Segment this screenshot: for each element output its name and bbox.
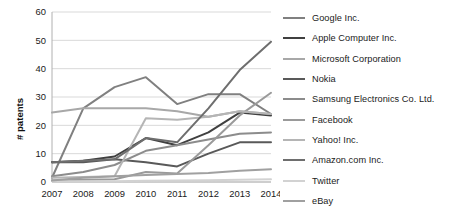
- chart-legend: Google Inc.Apple Computer Inc.Microsoft …: [283, 8, 458, 213]
- x-tick-label: 2011: [167, 188, 187, 199]
- y-tick-label: 40: [36, 63, 46, 74]
- legend-color-swatch: [283, 200, 305, 202]
- series-line: [52, 113, 271, 163]
- x-tick-label: 2008: [73, 188, 94, 199]
- y-axis-title: # patents: [14, 98, 25, 140]
- legend-item[interactable]: Nokia: [283, 69, 458, 89]
- legend-item[interactable]: Yahoo! Inc.: [283, 130, 458, 150]
- legend-item-label: Facebook: [312, 115, 353, 125]
- legend-item[interactable]: eBay: [283, 191, 458, 211]
- legend-item-label: Yahoo! Inc.: [312, 135, 358, 145]
- legend-color-swatch: [283, 180, 305, 182]
- y-tick-label: 30: [36, 91, 46, 102]
- y-tick-label: 0: [41, 176, 46, 187]
- legend-item[interactable]: Google Inc.: [283, 8, 458, 28]
- x-tick-label: 2010: [135, 188, 156, 199]
- x-tick-label: 2009: [104, 188, 125, 199]
- legend-item[interactable]: Twitter: [283, 170, 458, 190]
- series-line: [52, 111, 271, 178]
- legend-item[interactable]: Apple Computer Inc.: [283, 28, 458, 48]
- x-tick-label: 2007: [42, 188, 63, 199]
- y-tick-label: 20: [36, 120, 46, 131]
- legend-color-swatch: [283, 98, 305, 100]
- patents-line-chart-figure: # patents 010203040506020072008200920102…: [0, 0, 458, 217]
- legend-item[interactable]: Amazon.com Inc.: [283, 150, 458, 170]
- legend-color-swatch: [283, 17, 305, 19]
- legend-item[interactable]: Facebook: [283, 109, 458, 129]
- legend-item-label: Amazon.com Inc.: [312, 155, 384, 165]
- legend-item-label: Apple Computer Inc.: [312, 33, 397, 43]
- chart-canvas: 0102030405060200720082009201020112012201…: [0, 0, 280, 217]
- x-tick-label: 2014: [261, 188, 280, 199]
- legend-color-swatch: [283, 139, 305, 141]
- x-tick-label: 2013: [229, 188, 250, 199]
- y-tick-label: 10: [36, 148, 46, 159]
- series-line: [52, 142, 271, 166]
- series-line: [52, 93, 271, 181]
- x-tick-label: 2012: [198, 188, 219, 199]
- legend-color-swatch: [283, 58, 305, 60]
- series-line: [52, 42, 271, 162]
- legend-item-label: Google Inc.: [312, 13, 360, 23]
- legend-item[interactable]: Microsoft Corporation: [283, 49, 458, 69]
- legend-item-label: Microsoft Corporation: [312, 54, 401, 64]
- y-tick-label: 50: [36, 35, 46, 46]
- legend-item-label: Nokia: [312, 74, 336, 84]
- legend-item-label: Samsung Electronics Co. Ltd.: [312, 94, 434, 104]
- legend-item-label: Twitter: [312, 176, 339, 186]
- legend-item[interactable]: Samsung Electronics Co. Ltd.: [283, 89, 458, 109]
- legend-color-swatch: [283, 119, 305, 121]
- legend-color-swatch: [283, 159, 305, 161]
- legend-color-swatch: [283, 37, 305, 39]
- plot-area-container: # patents 010203040506020072008200920102…: [0, 0, 280, 217]
- legend-item-label: eBay: [312, 196, 333, 206]
- y-tick-label: 60: [36, 6, 46, 17]
- series-line: [52, 132, 271, 176]
- legend-color-swatch: [283, 78, 305, 80]
